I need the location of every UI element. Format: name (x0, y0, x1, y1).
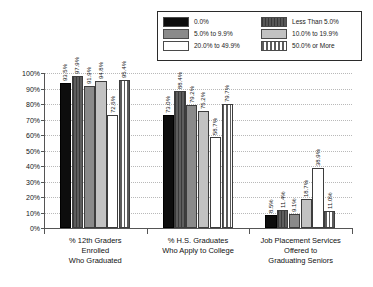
y-axis-tick-label: 0% (30, 225, 40, 232)
category-label-line: Graduating Seniors (249, 256, 352, 266)
bar[interactable] (277, 210, 288, 228)
bar-value-label: 11.4% (280, 192, 286, 209)
y-axis-tick (41, 166, 45, 167)
bar[interactable] (289, 214, 300, 228)
category-label-line: % H.S. Graduates (147, 236, 250, 246)
legend-swatch-dkgray-icon (261, 17, 287, 27)
category-label-line: Who Apply to College (147, 246, 250, 256)
bar[interactable] (119, 80, 130, 228)
bar[interactable] (301, 199, 312, 228)
bar-value-label: 79.2% (189, 86, 195, 103)
y-axis-tick-label: 20% (26, 194, 40, 201)
bar[interactable] (60, 83, 71, 228)
bar-value-label: 88.4% (177, 72, 183, 89)
legend-item-label: 10.0% to 19.9% (292, 31, 338, 38)
y-axis-tick-label: 40% (26, 163, 40, 170)
legend-item-left-0[interactable]: 0.0% (163, 16, 257, 28)
category-label-line: Offered to (249, 246, 352, 256)
legend-item-label: 50.0% or More (292, 43, 335, 50)
y-axis-tick (41, 135, 45, 136)
bar[interactable] (163, 115, 174, 228)
category-label-line: Enrolled (44, 246, 147, 256)
bar-group: 73.0%88.4%79.2%75.2%58.7%79.7% (147, 73, 250, 228)
y-axis-tick-label: 100% (22, 70, 40, 77)
legend-item-right-2[interactable]: 50.0% or More (261, 40, 356, 52)
legend-item-left-1[interactable]: 5.0% to 9.9% (163, 28, 257, 40)
y-axis-tick (41, 197, 45, 198)
bar-group: 93.5%97.9%91.9%94.8%72.6%95.4% (44, 73, 147, 228)
y-axis-tick (41, 120, 45, 121)
legend-item-left-2[interactable]: 20.0% to 49.9% (163, 40, 257, 52)
category-label-line: Who Graduated (44, 256, 147, 266)
x-axis-category-label: % 12th GradersEnrolledWho Graduated (44, 236, 147, 266)
bar[interactable] (186, 105, 197, 228)
legend-column-right: Less Than 5.0%10.0% to 19.9%50.0% or Mor… (261, 16, 356, 52)
y-axis-tick-label: 60% (26, 132, 40, 139)
y-axis-tick-label: 90% (26, 85, 40, 92)
bar-value-label: 79.7% (224, 85, 230, 102)
bar-value-label: 97.9% (74, 57, 80, 74)
legend-swatch-black-icon (163, 17, 189, 27)
bar-value-label: 73.0% (165, 96, 171, 113)
bar[interactable] (324, 211, 335, 228)
legend-column-left: 0.0%5.0% to 9.9%20.0% to 49.9% (163, 16, 257, 52)
plot-area: 93.5%97.9%91.9%94.8%72.6%95.4%73.0%88.4%… (44, 73, 352, 228)
bar[interactable] (198, 111, 209, 228)
y-axis-labels: 100%90%80%70%60%50%40%30%20%10%0% (0, 73, 40, 229)
chart-canvas: 0.0%5.0% to 9.9%20.0% to 49.9% Less Than… (0, 0, 373, 287)
bar[interactable] (72, 76, 83, 228)
y-axis-tick-label: 30% (26, 178, 40, 185)
chart-legend: 0.0%5.0% to 9.9%20.0% to 49.9% Less Than… (157, 11, 362, 61)
y-axis-tick (41, 213, 45, 214)
y-axis-line (44, 73, 45, 229)
y-axis-tick (41, 104, 45, 105)
bar[interactable] (95, 81, 106, 228)
bar[interactable] (210, 137, 221, 228)
x-axis-tick (147, 229, 148, 234)
bar-value-label: 11.0% (327, 192, 333, 209)
bar[interactable] (84, 86, 95, 228)
bar-value-label: 94.8% (98, 62, 104, 79)
legend-item-label: 20.0% to 49.9% (194, 43, 240, 50)
bar-value-label: 72.6% (110, 96, 116, 113)
legend-item-label: 5.0% to 9.9% (194, 31, 233, 38)
bar-value-label: 95.4% (121, 61, 127, 78)
y-axis-tick (41, 89, 45, 90)
bar[interactable] (265, 215, 276, 228)
legend-swatch-medgray-icon (163, 29, 189, 39)
bar[interactable] (312, 168, 323, 228)
bar-group: 8.5%11.4%9.1%18.7%38.9%11.0% (249, 73, 352, 228)
y-axis-tick-label: 50% (26, 147, 40, 154)
bar[interactable] (174, 91, 185, 228)
legend-item-right-0[interactable]: Less Than 5.0% (261, 16, 356, 28)
bar-value-label: 38.9% (315, 149, 321, 166)
legend-swatch-vstripe-icon (261, 41, 287, 51)
x-axis-tick (249, 229, 250, 234)
y-axis-tick-label: 70% (26, 116, 40, 123)
legend-item-label: 0.0% (194, 19, 209, 26)
x-axis-tick (352, 229, 353, 234)
x-axis-tick (44, 229, 45, 234)
bar[interactable] (107, 115, 118, 228)
y-axis-tick (41, 151, 45, 152)
legend-item-right-1[interactable]: 10.0% to 19.9% (261, 28, 356, 40)
bar[interactable] (222, 104, 233, 228)
y-axis-tick (41, 182, 45, 183)
legend-item-label: Less Than 5.0% (292, 19, 339, 26)
y-axis-tick (41, 73, 45, 74)
x-axis-category-label: Job Placement ServicesOffered toGraduati… (249, 236, 352, 266)
x-axis-line (44, 228, 353, 229)
y-axis-tick-label: 10% (26, 209, 40, 216)
x-axis-category-label: % H.S. GraduatesWho Apply to College (147, 236, 250, 256)
bar-value-label: 9.1% (291, 198, 297, 212)
y-axis-tick-label: 80% (26, 101, 40, 108)
legend-swatch-white-icon (163, 41, 189, 51)
bar-value-label: 58.7% (212, 118, 218, 135)
bar-value-label: 8.5% (268, 199, 274, 213)
category-label-line: Job Placement Services (249, 236, 352, 246)
category-label-line: % 12th Graders (44, 236, 147, 246)
legend-swatch-ltgray-icon (261, 29, 287, 39)
bar-value-label: 18.7% (303, 180, 309, 197)
bar-value-label: 75.2% (200, 92, 206, 109)
bar-value-label: 93.5% (62, 64, 68, 81)
